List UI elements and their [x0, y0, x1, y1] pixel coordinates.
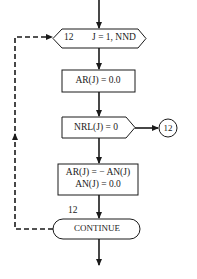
step1-statement: AR(J) = 0.0	[75, 76, 120, 86]
loop-start-statement: J = 1, NND	[92, 33, 136, 43]
decision-statement: NRL(J) = 0	[74, 123, 118, 133]
loop-start-label-number: 12	[64, 33, 74, 43]
loop-back-arrowhead	[46, 34, 53, 40]
loop-end-label-number: 12	[68, 206, 78, 216]
step2-line1: AR(J) = − AN(J)	[66, 168, 130, 178]
step2-line2: AN(J) = 0.0	[75, 180, 121, 190]
connector-label: 12	[164, 124, 173, 133]
loop-back-mid-arrowhead	[12, 133, 18, 140]
loop-back-dashed-line	[15, 37, 53, 229]
continue-statement: CONTINUE	[74, 224, 120, 233]
